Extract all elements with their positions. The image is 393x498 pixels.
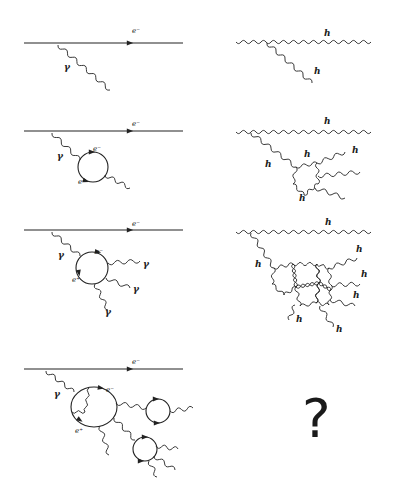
feynman-diagram-figure: e⁻ γ e⁻ γ e⁻ e⁺ e⁻ γ e⁻ e⁺ γ γ γ e⁻ γ e⁻… bbox=[0, 0, 393, 498]
label-graviton-main-3: h bbox=[325, 217, 332, 227]
internal-photon bbox=[72, 411, 85, 414]
label-graviton-out-3d: h bbox=[296, 314, 303, 324]
label-graviton-out-3a: h bbox=[356, 244, 363, 254]
label-photon-2: γ bbox=[57, 151, 64, 161]
photon-line bbox=[106, 278, 130, 288]
graviton-line bbox=[251, 133, 296, 167]
label-graviton-main-1: h bbox=[324, 28, 331, 38]
graviton-loop-cell bbox=[319, 283, 331, 290]
electron-arrow bbox=[127, 228, 133, 233]
photon-line bbox=[46, 371, 74, 392]
graviton-loop bbox=[293, 167, 297, 184]
graviton-loop-cell bbox=[300, 302, 316, 306]
photon-line bbox=[156, 445, 178, 450]
label-graviton-main-2: h bbox=[324, 116, 331, 126]
photon-line bbox=[116, 403, 146, 410]
label-out-photon-3c: γ bbox=[105, 307, 112, 317]
graviton-line bbox=[288, 305, 295, 320]
label-out-photon-3a: γ bbox=[143, 259, 150, 269]
graviton-loop-cell bbox=[274, 263, 293, 269]
photon-line bbox=[114, 418, 135, 440]
photon-line bbox=[108, 260, 140, 265]
graviton-loop-cell bbox=[284, 287, 296, 295]
photon-line bbox=[99, 426, 109, 455]
label-graviton-out-3c: h bbox=[353, 290, 360, 300]
label-graviton-branch-1: h bbox=[314, 66, 321, 76]
graviton-loop-cell bbox=[272, 284, 284, 295]
internal-photon bbox=[84, 388, 89, 412]
label-graviton-out-3b: h bbox=[361, 269, 368, 279]
graviton-loop-cell bbox=[316, 283, 320, 303]
electron-positron-loop bbox=[146, 399, 170, 423]
loop-arrow bbox=[142, 435, 148, 440]
graviton-loop bbox=[296, 162, 317, 168]
label-graviton-out-2: h bbox=[352, 145, 359, 155]
label-electron-4: e⁻ bbox=[132, 358, 140, 366]
label-loop-electron-3: e⁻ bbox=[95, 248, 103, 256]
label-graviton-loop-top-2: h bbox=[304, 149, 311, 159]
graviton-loop-cell bbox=[271, 268, 275, 284]
label-photon-3: γ bbox=[58, 250, 65, 260]
graviton-line bbox=[317, 152, 345, 164]
label-photon-4: γ bbox=[54, 389, 61, 399]
label-graviton-branch-2: h bbox=[265, 159, 272, 169]
label-loop-electron-4: e⁻ bbox=[106, 386, 114, 394]
graviton-line bbox=[236, 130, 371, 133]
graviton-line bbox=[331, 282, 360, 287]
label-loop-positron-4: e⁺ bbox=[75, 427, 83, 435]
electron-positron-loop bbox=[133, 437, 157, 461]
label-graviton-loop-bottom-2: h bbox=[299, 193, 306, 203]
graviton-loop bbox=[316, 163, 320, 184]
graviton-line bbox=[329, 258, 357, 269]
graviton-line bbox=[330, 300, 355, 306]
label-photon-1: γ bbox=[64, 62, 71, 72]
graviton-line bbox=[236, 230, 371, 233]
label-loop-electron-2: e⁻ bbox=[93, 145, 101, 153]
question-mark: ? bbox=[302, 387, 331, 450]
photon-line bbox=[105, 175, 130, 189]
photon-line bbox=[154, 456, 175, 470]
graviton-loop-cell bbox=[328, 290, 332, 305]
graviton-line bbox=[315, 188, 345, 199]
label-graviton-out-3e: h bbox=[336, 324, 343, 334]
label-out-photon-3b: γ bbox=[133, 284, 140, 294]
loop-arrow bbox=[154, 421, 160, 426]
graviton-loop-cell bbox=[293, 262, 317, 265]
photon-line bbox=[52, 232, 80, 256]
graviton-loop-cell bbox=[317, 264, 329, 269]
electron-positron-loop bbox=[76, 252, 108, 284]
label-electron-3: e⁻ bbox=[132, 220, 140, 228]
graviton-loop-cell bbox=[316, 302, 329, 306]
label-graviton-branch-3: h bbox=[255, 259, 262, 269]
graviton-loop-cell bbox=[295, 287, 301, 306]
electron-arrow bbox=[127, 367, 133, 372]
label-electron-2: e⁻ bbox=[132, 120, 140, 128]
label-loop-positron-3: e⁺ bbox=[72, 276, 80, 284]
graviton-loop-cell bbox=[328, 268, 333, 290]
electron-arrow bbox=[127, 129, 133, 134]
graviton-line bbox=[318, 171, 360, 178]
photon-line bbox=[170, 406, 193, 412]
loop-arrow bbox=[153, 397, 159, 402]
label-loop-positron-2: e⁺ bbox=[78, 178, 86, 186]
graviton-loop-cell bbox=[316, 264, 321, 283]
loop-arrow bbox=[138, 459, 144, 464]
graviton-line bbox=[236, 40, 371, 43]
graviton-line bbox=[320, 306, 334, 327]
graviton-line bbox=[267, 43, 312, 83]
electron-arrow bbox=[127, 41, 133, 46]
photon-line bbox=[148, 461, 157, 477]
label-electron-1: e⁻ bbox=[132, 27, 140, 35]
